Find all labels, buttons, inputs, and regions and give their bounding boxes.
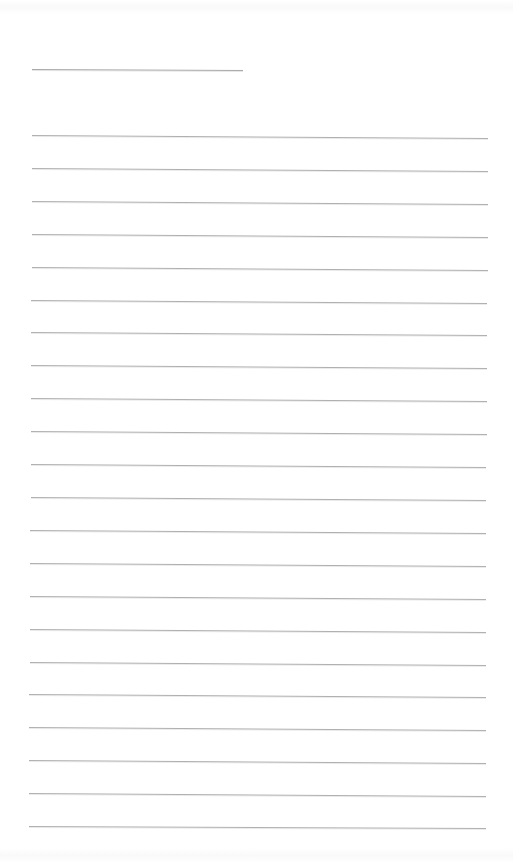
ruled-line <box>31 365 487 369</box>
ruled-line <box>31 431 487 435</box>
ruled-line <box>31 497 486 501</box>
ruled-line <box>29 760 486 764</box>
show-through-bottom <box>0 848 513 863</box>
ruled-line <box>29 727 486 731</box>
ruled-line <box>31 332 487 336</box>
ruled-line <box>30 530 486 534</box>
ruled-line <box>32 234 488 238</box>
lined-paper-page <box>0 0 513 863</box>
ruled-line <box>30 629 486 633</box>
ruled-line <box>32 168 488 172</box>
ruled-line <box>31 464 486 468</box>
show-through-top <box>0 0 513 14</box>
ruled-line <box>32 267 488 271</box>
title-line <box>32 69 243 71</box>
ruled-line <box>32 201 488 205</box>
ruled-line <box>30 563 486 567</box>
ruled-line <box>31 300 487 304</box>
ruled-line <box>32 135 488 139</box>
ruled-line <box>29 793 486 797</box>
ruled-line <box>29 694 486 698</box>
ruled-line <box>29 826 486 829</box>
ruled-line <box>31 398 487 402</box>
ruled-line <box>30 662 486 666</box>
ruled-line <box>30 596 486 600</box>
